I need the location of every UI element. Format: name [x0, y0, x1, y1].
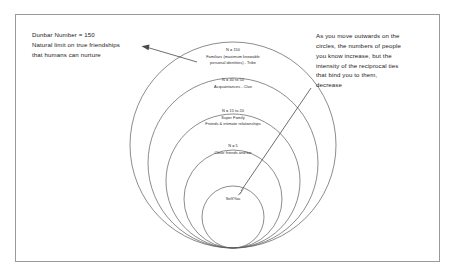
ring-desc-tribe: Familiars (maximum knowable	[168, 54, 298, 61]
right-annotation-arrowhead	[238, 188, 245, 195]
ring-desc2-super-family: Friends & intimate relationships	[168, 121, 298, 128]
dunbar-number-annotation: Dunbar Number = 150 Natural limit on tru…	[32, 30, 157, 60]
ring-circle-clan	[148, 78, 318, 248]
diagram-canvas: Dunbar Number = 150 Natural limit on tru…	[0, 0, 458, 276]
ring-count-self: Self/You	[168, 196, 298, 203]
ring-desc-super-family: Super Family	[168, 115, 298, 122]
ring-count-close-friends: N = 5	[168, 143, 298, 150]
ring-label-close-friends: N = 5 Close friends and kin	[168, 143, 298, 156]
ring-count-clan: N = 40 to 50	[168, 77, 298, 84]
ring-label-tribe: N = 150 Familiars (maximum knowable pers…	[168, 47, 298, 67]
reciprocal-ties-annotation: As you move outwards on the circles, the…	[316, 31, 434, 90]
ring-label-clan: N = 40 to 50 Acquaintances - Clan	[168, 77, 298, 90]
ring-count-super-family: N = 15 to 20	[168, 108, 298, 115]
ring-desc-close-friends: Close friends and kin	[168, 150, 298, 157]
ring-label-self: Self/You	[168, 196, 298, 203]
ring-label-super-family: N = 15 to 20 Super Family Friends & inti…	[168, 108, 298, 128]
ring-desc-clan: Acquaintances - Clan	[168, 84, 298, 91]
ring-desc2-tribe: personal identities) - Tribe	[168, 60, 298, 67]
ring-count-tribe: N = 150	[168, 47, 298, 54]
